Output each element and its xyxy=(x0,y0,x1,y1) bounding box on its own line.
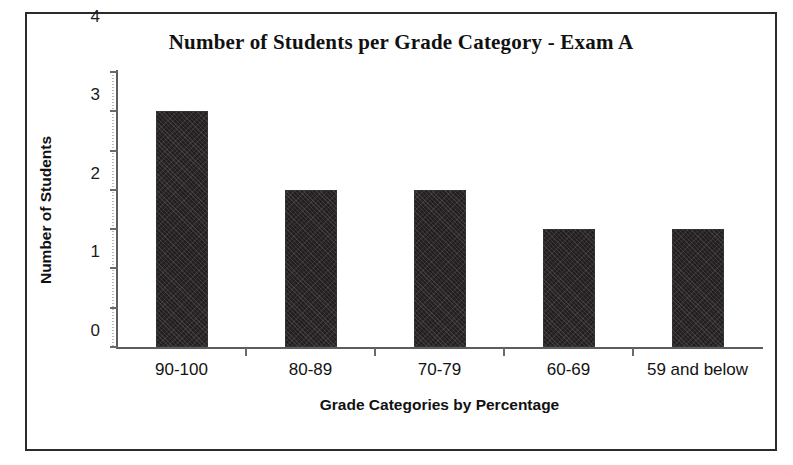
plot-area: 01234567 90-10080-8970-7960-6959 and bel… xyxy=(117,72,762,347)
bar[interactable] xyxy=(156,111,208,347)
bar[interactable] xyxy=(543,229,595,347)
chart-figure: Number of Students per Grade Category - … xyxy=(25,12,777,451)
x-tick xyxy=(374,348,376,356)
x-tick xyxy=(245,348,247,356)
x-tick xyxy=(632,348,634,356)
y-tick-label: 4 xyxy=(91,8,100,25)
y-axis-title-label: Number of Students xyxy=(37,135,55,283)
y-tick-label: 0 xyxy=(91,322,100,339)
y-tick: 2 xyxy=(110,267,117,269)
chart-title: Number of Students per Grade Category - … xyxy=(27,30,775,55)
x-tick-label: 60-69 xyxy=(547,361,590,378)
y-axis-title: Number of Students xyxy=(35,72,57,347)
y-tick: 5 xyxy=(110,150,117,152)
x-tick-label: 70-79 xyxy=(418,361,461,378)
y-tick: 7 xyxy=(110,71,117,73)
x-tick xyxy=(503,348,505,356)
bar[interactable] xyxy=(285,190,337,347)
y-tick-label: 3 xyxy=(91,86,100,103)
y-tick: 1 xyxy=(110,307,117,309)
bar[interactable] xyxy=(672,229,724,347)
y-tick: 6 xyxy=(110,110,117,112)
x-tick-label: 90-100 xyxy=(155,361,208,378)
y-tick-label: 1 xyxy=(91,244,100,261)
x-axis-line xyxy=(116,347,763,349)
bar[interactable] xyxy=(414,190,466,347)
y-tick: 3 xyxy=(110,228,117,230)
x-tick-label: 59 and below xyxy=(647,361,748,378)
x-axis-title: Grade Categories by Percentage xyxy=(117,396,762,414)
y-tick: 0 xyxy=(110,346,117,348)
y-tick: 4 xyxy=(110,189,117,191)
y-tick-label: 2 xyxy=(91,165,100,182)
x-tick-label: 80-89 xyxy=(289,361,332,378)
